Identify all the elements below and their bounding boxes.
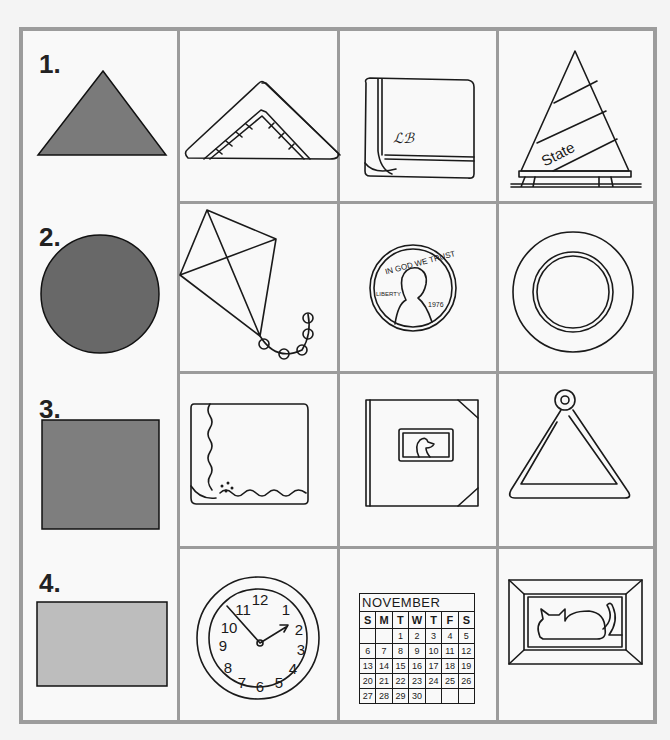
state-pennant-picture: State: [499, 31, 657, 201]
svg-text:11: 11: [235, 601, 251, 618]
svg-text:7: 7: [238, 674, 246, 691]
svg-text:12: 12: [252, 591, 269, 608]
calendar-date: 21: [376, 674, 392, 689]
calendar-date: 20: [360, 674, 376, 689]
svg-text:6: 6: [256, 678, 264, 695]
calendar-day-header: T: [392, 612, 408, 629]
calendar-date: 5: [458, 629, 474, 644]
calendar-picture: NOVEMBER SMTWTFS 12345678910111213141516…: [359, 593, 473, 704]
circle-shape: [23, 204, 177, 371]
calendar-date: 6: [360, 644, 376, 659]
calendar-date: 4: [442, 629, 458, 644]
svg-text:2: 2: [295, 621, 303, 638]
folded-handkerchief-picture: ℒℬ: [340, 31, 496, 201]
calendar-date: 24: [425, 674, 441, 689]
svg-text:4: 4: [289, 660, 297, 677]
calendar-date: 14: [376, 659, 392, 674]
calendar-date: 22: [392, 674, 408, 689]
rectangle-shape: [23, 549, 177, 724]
wall-clock-picture: 12 1 2 3 4 5 6 7 8 9 10 11: [180, 549, 337, 724]
svg-text:5: 5: [275, 674, 283, 691]
svg-text:10: 10: [221, 619, 238, 636]
svg-text:1976: 1976: [428, 301, 444, 308]
photo-album-picture: [340, 374, 496, 546]
calendar-date: 7: [376, 644, 392, 659]
folded-napkin-picture: [180, 31, 337, 201]
svg-text:3: 3: [297, 641, 305, 658]
calendar-date: 25: [442, 674, 458, 689]
calendar-date: [360, 629, 376, 644]
svg-text:ℒℬ: ℒℬ: [393, 131, 415, 146]
calendar-day-header: W: [409, 612, 426, 629]
plate-picture: [499, 204, 657, 371]
calendar-date: 19: [458, 659, 474, 674]
shape-matching-worksheet: 1. ℒℬ State 2. IN: [19, 27, 657, 724]
calendar-date: [425, 689, 441, 704]
calendar-date: 30: [409, 689, 426, 704]
calendar-date: 18: [442, 659, 458, 674]
kite-picture: [180, 204, 337, 371]
calendar-date: 16: [409, 659, 426, 674]
calendar-date: 26: [458, 674, 474, 689]
calendar-day-header: S: [458, 612, 474, 629]
calendar-day-header: M: [376, 612, 392, 629]
calendar-date: 9: [409, 644, 426, 659]
calendar-date: [376, 629, 392, 644]
calendar-day-header: F: [442, 612, 458, 629]
svg-text:9: 9: [219, 637, 227, 654]
triangle-shape: [23, 31, 177, 201]
calendar-date: 12: [458, 644, 474, 659]
svg-text:LIBERTY: LIBERTY: [376, 291, 401, 297]
calendar-date: 15: [392, 659, 408, 674]
calendar-date: 17: [425, 659, 441, 674]
calendar-date: 13: [360, 659, 376, 674]
svg-text:8: 8: [224, 659, 232, 676]
calendar-grid: NOVEMBER SMTWTFS 12345678910111213141516…: [359, 593, 475, 704]
calendar-date: 29: [392, 689, 408, 704]
calendar-date: 8: [392, 644, 408, 659]
calendar-date: 3: [425, 629, 441, 644]
calendar-day-header: T: [425, 612, 441, 629]
calendar-date: [442, 689, 458, 704]
calendar-date: 2: [409, 629, 426, 644]
calendar-date: 23: [409, 674, 426, 689]
calendar-date: 10: [425, 644, 441, 659]
calendar-date: [458, 689, 474, 704]
svg-text:1: 1: [282, 601, 290, 618]
scalloped-napkin-picture: [180, 374, 337, 546]
pennant-text: State: [538, 138, 577, 169]
calendar-date: 1: [392, 629, 408, 644]
calendar-day-header: S: [360, 612, 376, 629]
calendar-date: 11: [442, 644, 458, 659]
square-shape: [23, 374, 177, 546]
penny-picture: IN GOD WE TRUST LIBERTY 1976: [340, 204, 496, 371]
calendar-date: 27: [360, 689, 376, 704]
framed-cat-picture: [499, 549, 657, 724]
musical-triangle-picture: [499, 374, 657, 546]
calendar-date: 28: [376, 689, 392, 704]
